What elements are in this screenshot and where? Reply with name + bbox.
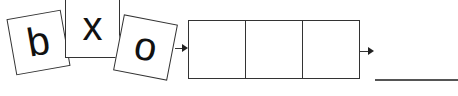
letter-tile-label: o — [131, 24, 160, 68]
answer-box-1[interactable] — [189, 21, 246, 78]
answer-box-row — [188, 20, 360, 79]
arrow-right-icon — [360, 51, 369, 52]
letter-tile-b[interactable]: b — [6, 10, 70, 76]
answer-box-3[interactable] — [303, 21, 359, 78]
answer-line[interactable] — [375, 79, 458, 81]
arrow-right-icon — [175, 48, 183, 49]
letter-tile-o[interactable]: o — [113, 14, 178, 80]
answer-box-2[interactable] — [246, 21, 303, 78]
letter-tile-label: b — [24, 19, 53, 62]
letter-tile-x[interactable]: x — [65, 0, 120, 58]
letter-tile-label: x — [83, 6, 103, 46]
